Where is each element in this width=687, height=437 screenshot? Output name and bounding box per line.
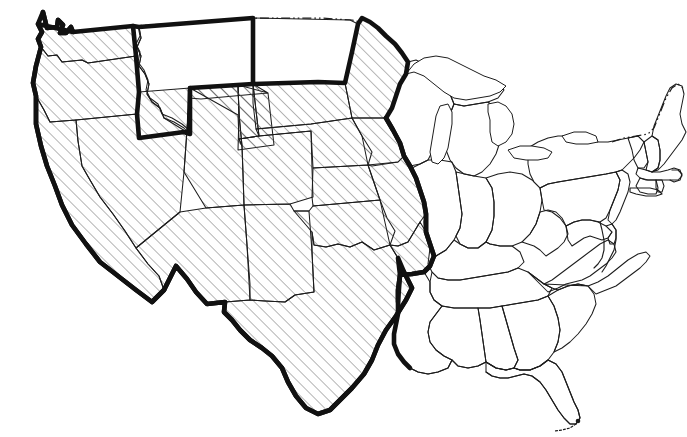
east-gulf-coastline [410,360,580,424]
state-new-jersey [608,170,630,224]
map-container [0,0,687,437]
state-colorado [239,131,313,205]
lake-huron [488,102,514,146]
key-west-dot [576,419,581,424]
state-mississippi [428,306,486,368]
florida-keys [554,424,576,431]
lake-ontario [562,132,598,144]
state-north-carolina [544,252,650,294]
state-kentucky [428,240,524,280]
state-tennessee [430,268,552,308]
state-maine [652,84,686,172]
lake-erie [508,146,552,160]
state-new-hampshire [644,136,660,172]
great-lakes-group [406,56,598,164]
lake-michigan [430,104,452,164]
washington-idaho-boundary [133,26,136,56]
state-ohio [486,172,542,246]
state-north-dakota [253,18,358,84]
state-west-virginia [522,210,568,256]
state-alabama [478,306,518,370]
state-georgia [502,296,560,370]
state-south-carolina [548,284,596,352]
state-virginia [528,240,616,292]
us-outline-map [0,0,687,437]
state-maryland [566,220,612,246]
lake-superior [406,56,506,100]
state-florida [486,360,580,424]
canada-border-line-east [612,84,683,142]
